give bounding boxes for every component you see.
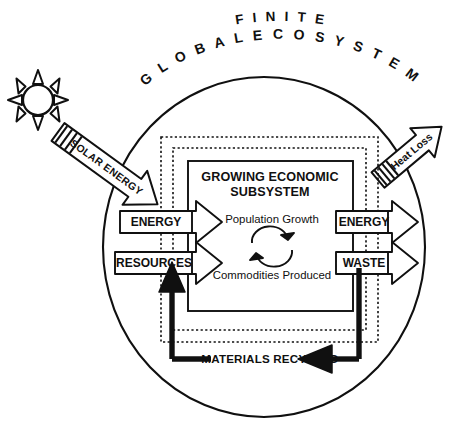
circular-recycle-arrows-icon [250, 226, 294, 266]
resources-input-label: RESOURCES [116, 256, 192, 270]
ecosystem-diagram: F I N I T E G L O B A L E C O S Y S T E … [0, 0, 469, 435]
heat-loss-arrow: Heat Loss [366, 112, 454, 194]
subsystem-heading-line1: GROWING ECONOMIC [201, 170, 338, 184]
population-growth-label: Population Growth [225, 213, 319, 225]
diagram-canvas: F I N I T E G L O B A L E C O S Y S T E … [0, 0, 469, 435]
commodities-produced-label: Commodities Produced [213, 269, 331, 281]
subsystem-heading-line2: SUBSYSTEM [230, 185, 309, 199]
energy-input-arrow: ENERGY [120, 201, 222, 243]
energy-output-arrow: ENERGY [336, 201, 418, 243]
sun-icon [8, 70, 68, 130]
global-ecosystem-boundary [103, 77, 425, 417]
energy-output-label: ENERGY [339, 215, 390, 229]
title-finite: F I N I T E [234, 9, 328, 28]
title-global-ecosystem: G L O B A L E C O S Y S T E M [137, 26, 425, 89]
waste-output-label: WASTE [343, 256, 386, 270]
energy-input-label: ENERGY [131, 215, 182, 229]
materials-recycled-label: MATERIALS RECYCLED [201, 352, 338, 365]
waste-output-arrow: WASTE [336, 242, 418, 284]
